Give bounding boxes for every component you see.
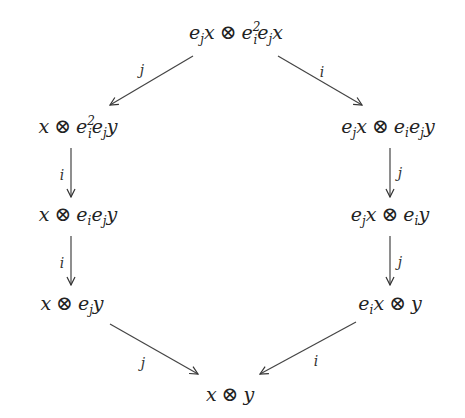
label-l1-to-l2: i bbox=[60, 167, 64, 183]
arrow-top-to-l1 bbox=[110, 56, 193, 105]
node-bottom: x⊗y bbox=[206, 382, 254, 406]
node-r3: eix⊗y bbox=[358, 291, 421, 318]
arrow-l3-to-bottom bbox=[110, 324, 198, 374]
arrow-r3-to-bottom bbox=[260, 322, 356, 374]
node-r2: ejx⊗eiy bbox=[351, 202, 429, 229]
label-r1-to-r2: j bbox=[398, 165, 402, 181]
node-top: ejx⊗e2iejx bbox=[189, 20, 283, 47]
label-top-to-l1: j bbox=[140, 62, 144, 78]
label-r3-to-bottom: i bbox=[314, 353, 318, 369]
node-r1: ejx⊗eiejy bbox=[341, 114, 434, 141]
label-r2-to-r3: j bbox=[398, 254, 402, 270]
node-l1: x⊗e2iejy bbox=[39, 114, 118, 141]
label-l2-to-l3: i bbox=[60, 255, 64, 271]
label-top-to-r1: i bbox=[320, 64, 324, 80]
node-l3: x⊗ejy bbox=[40, 291, 103, 318]
node-l2: x⊗eiejy bbox=[39, 202, 117, 229]
label-l3-to-bottom: j bbox=[141, 355, 145, 371]
